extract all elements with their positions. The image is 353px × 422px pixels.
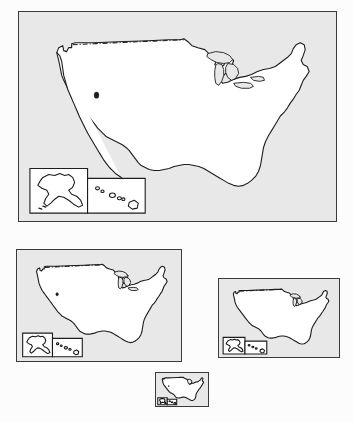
contiguous-us-outline (162, 377, 203, 400)
caption-strip: clipped caption line (0, 408, 353, 422)
map-panel-small[interactable] (218, 278, 340, 358)
map-canvas-tiny (156, 373, 208, 406)
contiguous-us-outline (37, 264, 168, 342)
interior-lake-marker (94, 92, 99, 98)
contiguous-us-outline (233, 289, 329, 344)
map-panel-large[interactable] (18, 11, 337, 222)
map-canvas-medium (17, 250, 181, 361)
lake-michigan (293, 298, 296, 306)
lake-huron (124, 277, 131, 286)
great-lakes-simplified (187, 379, 192, 384)
lake-erie (128, 287, 138, 290)
interior-lake-marker (56, 292, 59, 296)
map-canvas-small (219, 279, 339, 357)
map-canvas-large (19, 12, 336, 221)
figure-page: clipped caption line (0, 0, 353, 422)
map-panel-tiny[interactable] (155, 372, 209, 407)
map-panel-medium[interactable] (16, 249, 182, 362)
contiguous-us-outline (57, 39, 309, 187)
lake-huron (297, 298, 302, 304)
interior-lake-marker (168, 385, 169, 387)
